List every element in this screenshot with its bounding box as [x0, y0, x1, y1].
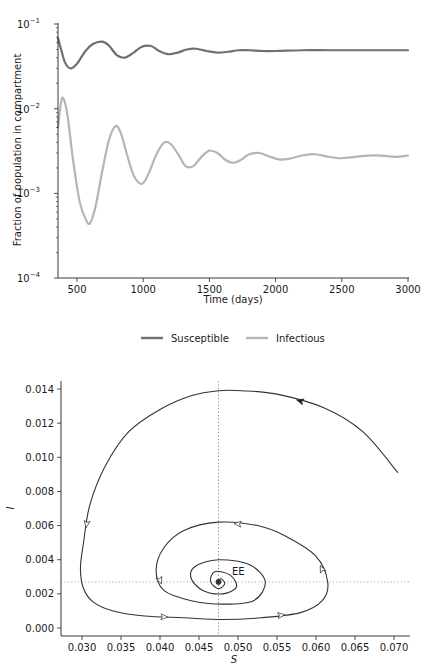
x-tick-label: 2500 — [329, 284, 354, 295]
y-tick-label: 0.014 — [25, 384, 54, 395]
x-tick-label: 0.065 — [341, 642, 370, 653]
figure: 10−110−210−310−4 50010001500200025003000… — [0, 0, 429, 672]
x-tick-label: 0.050 — [224, 642, 253, 653]
x-tick-label: 0.040 — [146, 642, 175, 653]
x-tick-label: 500 — [67, 284, 86, 295]
bottom-x-ticks: 0.0300.0350.0400.0450.0500.0550.0600.065… — [68, 636, 409, 653]
top-y-ticks: 10−110−210−310−4 — [17, 17, 58, 284]
x-tick-label: 0.045 — [185, 642, 214, 653]
x-tick-label: 0.030 — [68, 642, 97, 653]
legend-label-infectious: Infectious — [276, 333, 325, 344]
phase-portrait-chart: 0.0000.0020.0040.0060.0080.0100.0120.014… — [5, 381, 410, 665]
x-tick-label: 0.055 — [263, 642, 292, 653]
time-series-chart: 10−110−210−310−4 50010001500200025003000… — [12, 17, 421, 305]
equilibrium-annotation: EE — [232, 566, 245, 577]
y-tick-label: 0.008 — [25, 486, 54, 497]
x-tick-label: 0.070 — [380, 642, 409, 653]
bottom-x-axis-label: S — [231, 654, 238, 665]
top-x-axis-label: Time (days) — [202, 294, 262, 305]
phase-trajectory — [80, 390, 397, 619]
trajectory-line — [80, 390, 397, 619]
x-tick-label: 1000 — [130, 284, 155, 295]
y-tick-label: 10−1 — [17, 17, 40, 30]
x-tick-label: 0.035 — [107, 642, 136, 653]
direction-arrows — [83, 397, 326, 620]
bottom-y-ticks: 0.0000.0020.0040.0060.0080.0100.0120.014 — [25, 384, 61, 634]
series-line-infectious — [58, 98, 408, 224]
top-y-axis-label: Fraction of population in compartment — [12, 54, 23, 247]
y-tick-label: 0.012 — [25, 418, 54, 429]
legend: Susceptible Infectious — [141, 333, 325, 344]
legend-label-susceptible: Susceptible — [171, 333, 229, 344]
x-tick-label: 2000 — [263, 284, 288, 295]
direction-arrow-icon — [234, 521, 241, 528]
y-tick-label: 10−4 — [17, 271, 41, 284]
bottom-y-axis-label: I — [5, 506, 16, 509]
direction-arrow-icon — [278, 612, 286, 619]
equilibrium-point — [216, 579, 222, 585]
y-tick-label: 0.006 — [25, 520, 54, 531]
y-tick-label: 0.004 — [25, 554, 54, 565]
series-line-susceptible — [58, 38, 408, 68]
equilibrium-reference-lines — [61, 381, 410, 636]
x-tick-label: 0.060 — [302, 642, 331, 653]
time-series-lines — [58, 38, 408, 224]
top-x-ticks: 50010001500200025003000 — [67, 278, 420, 295]
y-tick-label: 0.002 — [25, 588, 54, 599]
y-tick-label: 0.010 — [25, 452, 54, 463]
x-tick-label: 3000 — [395, 284, 420, 295]
y-tick-label: 0.000 — [25, 623, 54, 634]
